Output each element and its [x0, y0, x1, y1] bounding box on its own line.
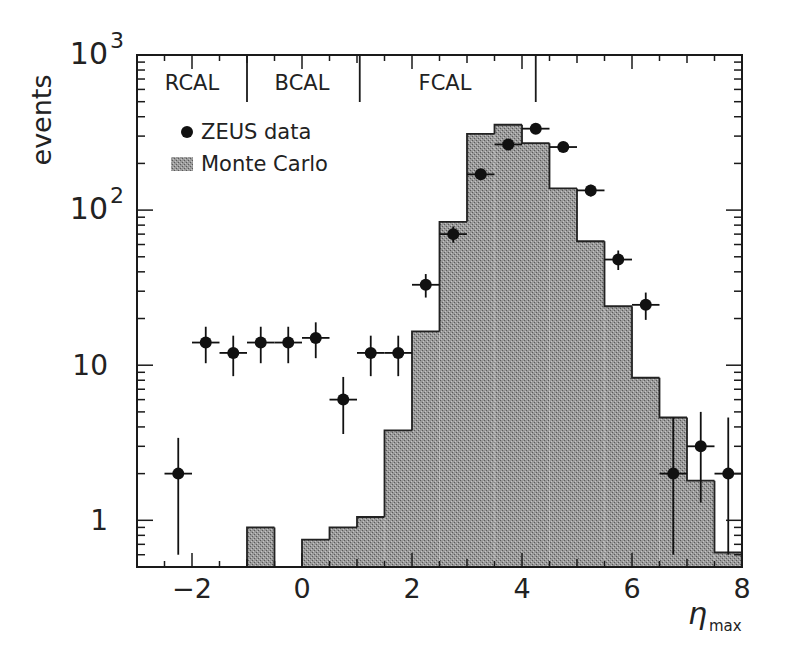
mc-bin [605, 306, 633, 567]
y-tick-label: 103 [70, 28, 124, 71]
mc-bin [522, 143, 550, 567]
x-tick-label: 4 [513, 573, 530, 604]
data-point [715, 418, 743, 555]
x-axis-label-main: η [688, 596, 707, 631]
data-point [220, 336, 248, 376]
svg-text:3: 3 [110, 28, 124, 53]
legend-label-data: ZEUS data [201, 120, 311, 144]
svg-text:10: 10 [70, 191, 108, 226]
data-point [522, 123, 550, 135]
mc-bin [550, 188, 578, 567]
svg-text:10: 10 [70, 36, 108, 71]
mc-bin [302, 540, 330, 567]
histogram-chart: −202468110102103 RCAL BCAL FCAL ZEUS dat… [0, 0, 786, 661]
monte-carlo-histogram [137, 125, 742, 567]
x-tick-label: 6 [623, 573, 640, 604]
data-point [302, 322, 330, 358]
data-point [330, 377, 358, 434]
data-point [192, 327, 220, 363]
monte-carlo-swatch-icon [171, 157, 193, 171]
y-axis-label: events [26, 75, 57, 166]
y-tick-label: 10 [72, 349, 108, 382]
data-point [275, 327, 303, 363]
data-point [632, 293, 660, 320]
mc-bin [577, 241, 605, 567]
mc-bin [247, 527, 275, 567]
svg-text:2: 2 [110, 183, 124, 208]
mc-bin [467, 134, 495, 567]
data-point [357, 336, 385, 376]
mc-bin [440, 222, 468, 567]
mc-bin [357, 517, 385, 567]
annotation-rcal: RCAL [165, 71, 220, 95]
mc-bin [495, 125, 523, 567]
data-point [412, 274, 440, 298]
data-point [165, 438, 193, 555]
annotation-fcal: FCAL [419, 71, 472, 95]
data-marker-icon [181, 126, 193, 138]
x-tick-label: 2 [403, 573, 420, 604]
mc-bin [330, 527, 358, 567]
svg-text:10: 10 [72, 349, 108, 382]
x-tick-label: 0 [293, 573, 310, 604]
legend: ZEUS data Monte Carlo [171, 120, 328, 176]
annotation-bcal: BCAL [275, 71, 330, 95]
data-point [550, 141, 578, 153]
y-tick-label: 102 [70, 183, 124, 226]
x-tick-label: 8 [733, 573, 750, 604]
y-tick-label: 1 [90, 504, 108, 537]
mc-bin [632, 378, 660, 567]
data-point [577, 184, 605, 196]
svg-text:1: 1 [90, 504, 108, 537]
mc-bin [385, 430, 413, 567]
x-tick-label: −2 [172, 573, 212, 604]
data-point [247, 327, 275, 363]
x-axis-label-subscript: max [709, 617, 742, 635]
legend-label-monte-carlo: Monte Carlo [201, 152, 328, 176]
data-point [605, 250, 633, 270]
data-point [385, 336, 413, 376]
mc-bin [412, 331, 440, 567]
